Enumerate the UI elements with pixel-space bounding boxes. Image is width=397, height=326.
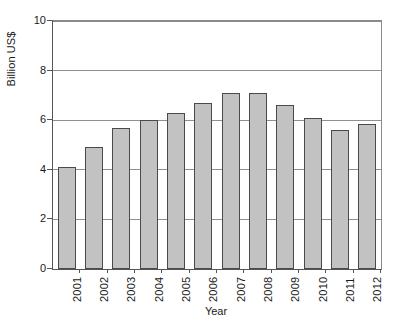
x-axis-tick-mark bbox=[353, 269, 354, 273]
y-axis-tick-label: 2 bbox=[6, 213, 46, 223]
x-axis-tick-label: 2012 bbox=[371, 277, 383, 302]
x-axis-tick-label: 2011 bbox=[344, 278, 356, 302]
x-axis-tick-mark bbox=[216, 269, 217, 273]
bar bbox=[276, 105, 294, 269]
bar bbox=[58, 167, 76, 269]
y-axis-tick-label: 6 bbox=[6, 114, 46, 124]
y-axis-tick-label: 10 bbox=[6, 15, 46, 25]
bar bbox=[112, 128, 130, 269]
bar bbox=[331, 130, 349, 269]
x-axis-tick-mark bbox=[107, 269, 108, 273]
bar bbox=[249, 93, 267, 269]
x-axis-tick-mark bbox=[161, 269, 162, 273]
y-axis-tick-label: 0 bbox=[6, 263, 46, 273]
x-axis-tick-label: 2005 bbox=[180, 277, 192, 302]
bar bbox=[358, 124, 376, 269]
x-axis-tick-mark bbox=[380, 269, 381, 273]
x-axis-tick-label: 2006 bbox=[207, 277, 219, 302]
bar bbox=[222, 93, 240, 269]
x-axis-tick-mark bbox=[134, 269, 135, 273]
plot-area bbox=[52, 20, 382, 270]
bar bbox=[85, 147, 103, 269]
x-axis-tick-mark bbox=[271, 269, 272, 273]
x-axis-tick-label: 2007 bbox=[235, 277, 247, 302]
x-axis-tick-label: 2001 bbox=[71, 277, 83, 302]
bar-chart: Billion US$ 0246810 20012002200320042005… bbox=[0, 0, 397, 326]
bar-series bbox=[53, 21, 381, 269]
y-axis-tick-label: 8 bbox=[6, 65, 46, 75]
bar bbox=[304, 118, 322, 269]
y-axis-tick-label: 4 bbox=[6, 164, 46, 174]
x-axis-tick-label: 2009 bbox=[289, 277, 301, 302]
x-axis-tick-mark bbox=[79, 269, 80, 273]
x-axis-tick-mark bbox=[243, 269, 244, 273]
x-axis-tick-mark bbox=[298, 269, 299, 273]
x-axis-tick-label: 2008 bbox=[262, 277, 274, 302]
x-axis-tick-mark bbox=[189, 269, 190, 273]
x-axis-tick-label: 2002 bbox=[98, 277, 110, 302]
x-axis-tick-mark bbox=[325, 269, 326, 273]
bar bbox=[167, 113, 185, 269]
x-axis-tick-label: 2003 bbox=[125, 277, 137, 302]
x-axis-title: Year bbox=[52, 305, 380, 317]
x-axis-tick-label: 2004 bbox=[153, 277, 165, 302]
bar bbox=[140, 120, 158, 269]
bar bbox=[194, 103, 212, 269]
x-axis-tick-label: 2010 bbox=[317, 277, 329, 302]
